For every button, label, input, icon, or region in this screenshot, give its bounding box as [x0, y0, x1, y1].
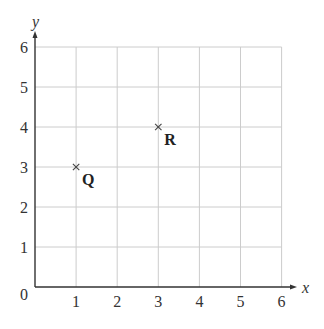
x-tick-label: 3: [154, 293, 162, 310]
x-tick-label: 4: [195, 293, 203, 310]
x-axis-arrow-icon: [290, 285, 297, 290]
y-axis-label: y: [30, 13, 40, 31]
x-tick-label: 5: [237, 293, 245, 310]
y-tick-label: 1: [20, 239, 28, 256]
grid-lines: [35, 47, 282, 287]
y-axis-arrow-icon: [33, 31, 38, 38]
x-tick-label: 1: [72, 293, 80, 310]
x-tick-label: 6: [278, 293, 286, 310]
axes: [33, 31, 298, 290]
y-tick-label: 5: [20, 79, 28, 96]
x-axis-label: x: [301, 279, 309, 296]
data-points: QR: [73, 124, 176, 188]
point-label: R: [164, 131, 176, 148]
y-tick-label: 3: [20, 159, 28, 176]
point-label: Q: [82, 171, 94, 188]
x-tick-label: 2: [113, 293, 121, 310]
y-tick-label: 6: [20, 39, 28, 56]
coordinate-grid-chart: xy0123456123456 QR: [0, 0, 324, 329]
y-tick-label: 4: [20, 119, 28, 136]
origin-label: 0: [20, 286, 28, 303]
y-tick-label: 2: [20, 199, 28, 216]
tick-labels: xy0123456123456: [20, 13, 309, 310]
